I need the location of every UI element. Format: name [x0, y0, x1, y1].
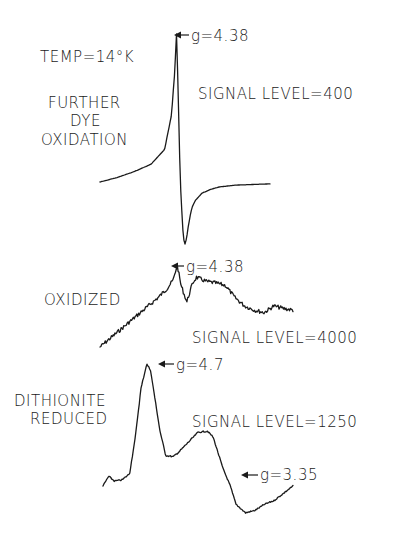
temperature-label: TEMP=14°K	[40, 48, 134, 66]
panel2-peak-label: g=4.38	[186, 258, 244, 276]
panel1-signal-level: SIGNAL LEVEL=400	[198, 85, 353, 103]
panel2-label: OXIDIZED	[44, 291, 121, 309]
panel3-peak1-label: g=4.7	[176, 356, 224, 374]
panel3-signal-level: SIGNAL LEVEL=1250	[192, 413, 357, 431]
panel3-peak1-arrow	[158, 361, 174, 368]
panel3-peak2-label: g=3.35	[260, 466, 318, 484]
panel1-label-line1: FURTHER	[48, 94, 121, 112]
panel3-peak2-arrow	[241, 472, 258, 479]
panel3-trace	[103, 364, 293, 513]
panel1-label-line2: DYE	[70, 112, 101, 130]
panel1-label-line3: OXIDATION	[41, 131, 128, 149]
panel3-label-line1: DITHIONITE	[14, 392, 106, 410]
panel2-signal-level: SIGNAL LEVEL=4000	[192, 329, 357, 347]
panel3-label-line2: REDUCED	[30, 410, 107, 428]
epr-spectra-figure: TEMP=14°K FURTHER DYE OXIDATION SIGNAL L…	[0, 0, 404, 539]
panel1-peak-label: g=4.38	[191, 27, 249, 45]
